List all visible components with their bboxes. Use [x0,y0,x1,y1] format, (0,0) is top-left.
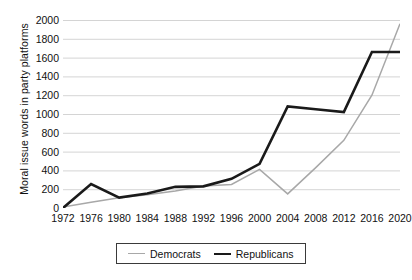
y-tick-1800: 1800 [19,34,59,44]
x-tick-2020: 2020 [380,211,412,225]
plot-area [63,20,400,208]
chart-legend: Democrats Republicans [116,243,306,264]
legend-label-democrats: Democrats [150,248,201,260]
x-axis-tick-labels: 1972197619801984198819921996200020042008… [0,211,412,227]
legend-line-swatch-democrats [128,253,145,254]
y-tick-1400: 1400 [19,71,59,81]
y-tick-800: 800 [19,128,59,138]
y-tick-1000: 1000 [19,109,59,119]
y-tick-1200: 1200 [19,90,59,100]
y-tick-1600: 1600 [19,53,59,63]
legend-item-democrats[interactable]: Democrats [128,248,201,260]
chart-svg [63,20,400,208]
y-tick-400: 400 [19,165,59,175]
data-series-layer [63,24,400,208]
y-tick-600: 600 [19,147,59,157]
legend-label-republicans: Republicans [236,248,294,260]
y-axis-tick-labels: 2000180016001400120010008006004002000 [14,0,59,280]
chart-figure: Moral issue words in party platforms 200… [0,0,412,280]
legend-line-swatch-republicans [214,253,231,255]
y-tick-200: 200 [19,184,59,194]
legend-item-republicans[interactable]: Republicans [214,248,294,260]
y-tick-2000: 2000 [19,15,59,25]
